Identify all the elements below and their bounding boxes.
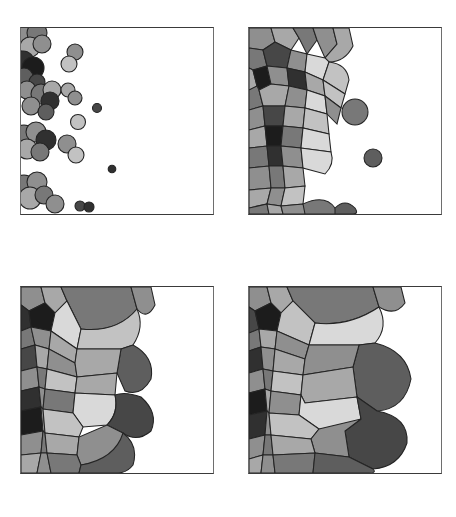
panel-b-bottom-axis-labels bbox=[228, 215, 456, 228]
panel-a-top-axis-labels bbox=[0, 1, 228, 15]
panel-b-plot-area bbox=[248, 27, 442, 215]
panel-c-caption bbox=[0, 500, 228, 511]
figure-grid bbox=[0, 0, 456, 517]
panel-a-bottom-axis-labels bbox=[0, 215, 228, 228]
panel-c-plot-area bbox=[20, 286, 214, 474]
panel-d-grains bbox=[249, 287, 441, 473]
panel-a-plot-area bbox=[20, 27, 214, 215]
panel-c bbox=[0, 259, 228, 517]
panel-c-bottom-axis-labels bbox=[0, 474, 228, 487]
panel-d bbox=[228, 259, 456, 517]
panel-d-bottom-axis-labels bbox=[228, 474, 456, 487]
panel-a-caption bbox=[0, 241, 228, 252]
panel-c-top-axis-labels bbox=[0, 260, 228, 274]
panel-b bbox=[228, 0, 456, 258]
panel-d-caption bbox=[228, 500, 456, 511]
panel-b-top-axis-labels bbox=[228, 1, 456, 15]
panel-a bbox=[0, 0, 228, 258]
panel-b-caption bbox=[228, 241, 456, 252]
panel-c-grains bbox=[21, 287, 213, 473]
panel-d-plot-area bbox=[248, 286, 442, 474]
panel-b-grains bbox=[249, 28, 441, 214]
panel-a-grains bbox=[21, 28, 213, 214]
panel-d-top-axis-labels bbox=[228, 260, 456, 274]
